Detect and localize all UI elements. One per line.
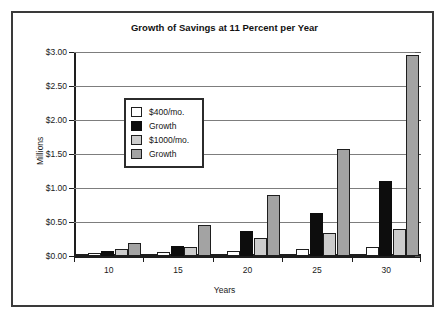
y-axis-label: $3.00: [46, 47, 67, 57]
bar: [296, 249, 309, 256]
bar: [157, 252, 170, 256]
legend-swatch-icon: [131, 121, 142, 131]
chart-legend: $400/mo.Growth$1000/mo.Growth: [124, 98, 204, 168]
bar: [379, 181, 392, 256]
bar: [128, 243, 141, 256]
x-axis-tick: [213, 256, 214, 262]
bar: [254, 238, 267, 256]
bar: [184, 247, 197, 256]
gridline: [74, 52, 421, 53]
chart-frame: Growth of Savings at 11 Percent per Year…: [11, 11, 434, 307]
legend-label: Growth: [149, 121, 176, 131]
legend-item: $1000/mo.: [131, 133, 196, 147]
x-axis-category-label: 20: [243, 265, 252, 275]
y-axis-label: $2.50: [46, 81, 67, 91]
bar: [393, 229, 406, 256]
bar: [198, 225, 211, 256]
chart-figure: Growth of Savings at 11 Percent per Year…: [0, 0, 445, 318]
y-axis-tick: [69, 154, 74, 155]
chart-title: Growth of Savings at 11 Percent per Year: [13, 22, 436, 33]
legend-item: Growth: [131, 147, 196, 161]
legend-label: $400/mo.: [149, 107, 184, 117]
legend-swatch-icon: [131, 135, 142, 145]
gridline: [74, 188, 421, 189]
legend-item: Growth: [131, 119, 196, 133]
y-axis-label: $0.50: [46, 217, 67, 227]
x-axis-line: [74, 256, 421, 258]
bar: [101, 251, 114, 256]
y-axis-tick: [69, 86, 74, 87]
y-axis-tick: [69, 120, 74, 121]
y-axis-label: $2.00: [46, 115, 67, 125]
bar: [337, 149, 350, 256]
x-axis-category-label: 10: [104, 265, 113, 275]
legend-swatch-icon: [131, 107, 142, 117]
y-axis-tick: [69, 222, 74, 223]
bar: [88, 253, 101, 256]
x-axis-tick: [352, 256, 353, 262]
bar: [171, 246, 184, 256]
legend-label: Growth: [149, 149, 176, 159]
bar: [323, 233, 336, 256]
legend-swatch-icon: [131, 149, 142, 159]
x-axis-category-label: 25: [312, 265, 321, 275]
x-axis-tick: [282, 256, 283, 262]
y-axis-label: $1.00: [46, 183, 67, 193]
bar: [115, 249, 128, 256]
legend-item: $400/mo.: [131, 105, 196, 119]
legend-label: $1000/mo.: [149, 135, 189, 145]
y-axis-tick: [69, 52, 74, 53]
x-axis-tick: [143, 256, 144, 262]
x-axis-title: Years: [13, 285, 436, 295]
bar: [267, 195, 280, 256]
bar: [240, 231, 253, 256]
y-axis-tick: [69, 188, 74, 189]
x-axis-tick: [74, 256, 75, 262]
gridline: [74, 222, 421, 223]
bar: [406, 55, 419, 256]
gridline: [74, 86, 421, 87]
y-axis-label: $1.50: [46, 149, 67, 159]
x-axis-tick: [420, 256, 421, 262]
bar: [310, 213, 323, 256]
bar: [227, 251, 240, 256]
bar: [366, 247, 379, 256]
y-axis-label: $0.00: [46, 251, 67, 261]
x-axis-category-label: 15: [173, 265, 182, 275]
y-axis-tick-right: [415, 52, 421, 53]
x-axis-category-label: 30: [382, 265, 391, 275]
y-axis-title: Millions: [35, 137, 45, 165]
